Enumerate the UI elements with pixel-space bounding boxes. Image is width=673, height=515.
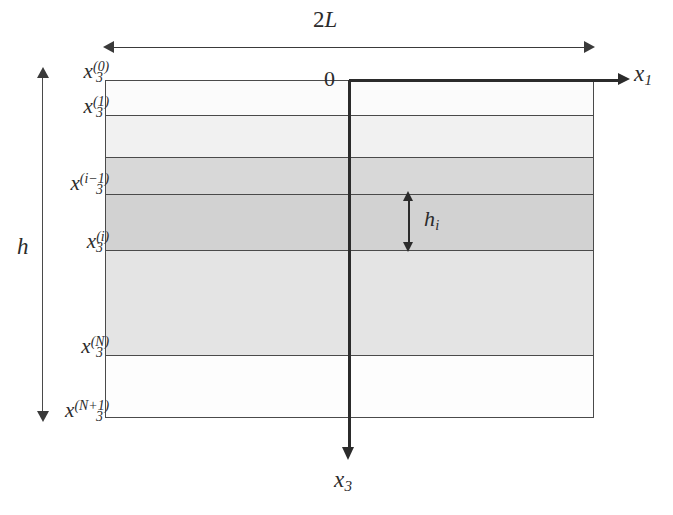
x1-axis-line: [349, 79, 621, 82]
x3-axis-arrowhead: [342, 447, 354, 460]
interface-label-N: x(N)3: [81, 335, 103, 359]
interface-label-i: x(i)3: [87, 230, 103, 254]
thickness-dimension-arrow-bottom: [37, 411, 49, 422]
layer-coordinate-diagram: 2L h x1 0 x3 hi x(0)3x(1)3x(i−1)3x(i)3x(…: [0, 0, 673, 515]
interface-label-top: x(0)3: [84, 60, 103, 84]
thickness-dimension-arrow-top: [37, 67, 49, 78]
layer-thickness-line: [408, 199, 410, 245]
origin-label: 0: [324, 68, 335, 90]
x3-axis-line: [348, 80, 351, 451]
x1-axis-arrowhead: [618, 73, 630, 85]
interface-label-after-1: x(1)3: [84, 95, 103, 119]
x1-axis-label: x1: [634, 62, 652, 87]
width-dimension-line: [112, 47, 587, 48]
thickness-dimension-line: [42, 78, 43, 414]
thickness-dimension-label: h: [17, 235, 29, 258]
interface-label-i-minus-1: x(i−1)3: [70, 172, 103, 196]
layer-thickness-arrow-bottom: [403, 242, 413, 252]
width-dimension-arrow-right: [584, 41, 595, 53]
width-dimension-label: 2L: [313, 8, 337, 31]
x3-axis-label: x3: [334, 468, 352, 493]
layer-thickness-label: hi: [424, 208, 439, 233]
interface-label-N-plus-1: x(N+1)3: [65, 399, 103, 423]
